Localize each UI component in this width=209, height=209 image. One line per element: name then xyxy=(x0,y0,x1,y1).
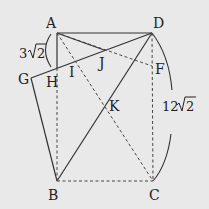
segment-dc xyxy=(152,33,153,181)
arc-dc-lower xyxy=(153,134,171,181)
label-k: K xyxy=(109,98,120,114)
measure-dc-coef: 12 xyxy=(162,99,179,114)
geometry-diagram: A D G H I J F K B C 3 2 12 2 xyxy=(0,0,209,209)
label-c: C xyxy=(149,187,160,203)
label-j: J xyxy=(97,55,105,71)
segment-gb xyxy=(31,78,57,181)
measure-dc-label: 12 2 xyxy=(162,97,196,114)
label-b: B xyxy=(48,187,58,203)
arc-ah-measure xyxy=(46,34,52,67)
label-f: F xyxy=(155,61,165,77)
label-i: I xyxy=(69,64,75,80)
label-a: A xyxy=(45,15,57,31)
measure-ah-coef: 3 xyxy=(19,46,27,61)
label-h: H xyxy=(46,74,58,90)
measure-ah-radicand: 2 xyxy=(37,46,45,61)
segment-gd xyxy=(31,33,152,78)
label-g: G xyxy=(18,71,29,87)
label-d: D xyxy=(153,15,164,31)
measure-dc-radicand: 2 xyxy=(186,99,194,114)
measure-ah-label: 3 2 xyxy=(19,44,46,61)
